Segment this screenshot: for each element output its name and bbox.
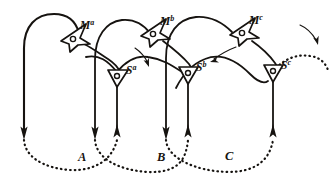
node-label-Mc: Mc (248, 13, 263, 26)
node-label-Sc: Sc (281, 58, 291, 71)
segment-label-C: C (225, 149, 234, 163)
arrowhead-b-up (184, 124, 191, 138)
arrowhead-c-up (269, 124, 276, 138)
segment-label-B: B (156, 150, 165, 164)
fibre-a-descending (24, 14, 79, 131)
glyph-Sa (108, 70, 128, 87)
arrowhead-a-up (113, 124, 120, 138)
segment-label-A: A (77, 150, 86, 164)
fibre-c-descending-outer (166, 17, 232, 131)
peripheral-path-a (24, 140, 117, 170)
node-label-Ma: Ma (79, 18, 94, 31)
node-label-Mb: Mb (159, 14, 174, 27)
node-label-Sa: Sa (126, 63, 136, 76)
peripheral-path-c (166, 140, 273, 172)
nerve-arc-diagram: Ma Mb Mc Sa Sb Sc A B C (0, 0, 330, 185)
figure-root: Ma Mb Mc Sa Sb Sc A B C (0, 0, 330, 185)
direction-arrow-3 (300, 25, 319, 45)
node-label-Sb: Sb (196, 60, 206, 73)
